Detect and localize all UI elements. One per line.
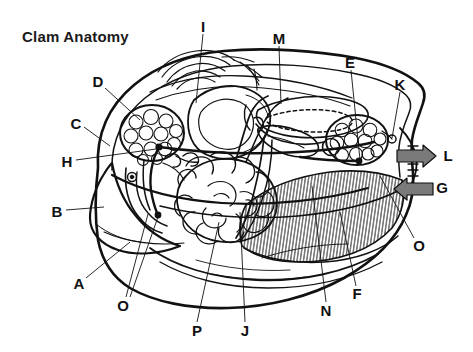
page-title: Clam Anatomy: [22, 28, 129, 45]
cerebral-ganglion-dot: [155, 143, 162, 150]
leader-line-I: [196, 34, 203, 103]
leader-line-B: [66, 207, 104, 210]
leader-line-A: [86, 242, 130, 278]
callout-label-G: G: [436, 180, 448, 195]
callout-label-C: C: [71, 116, 82, 131]
callout-label-H: H: [62, 154, 73, 169]
callout-label-N: N: [321, 303, 332, 318]
callout-label-D: D: [93, 74, 104, 89]
callout-label-F: F: [352, 286, 361, 301]
clam-anatomy-illustration: [0, 0, 473, 352]
gill-ctenidium: [236, 168, 411, 268]
callout-label-I: I: [201, 19, 205, 34]
callout-label-K: K: [395, 77, 406, 92]
clam-anatomy-figure: Clam Anatomy A B C D E F G H I J K L M N…: [0, 0, 473, 352]
umbo-radial-striae: [222, 57, 262, 90]
foot-retractor: [143, 160, 150, 210]
palp-small-loop-b: [183, 153, 199, 166]
foot-tip-crease: [96, 224, 140, 242]
callout-label-O-left: O: [117, 298, 129, 313]
heart-dashed-outline: [266, 110, 353, 132]
anterior-adductor-cells: [124, 110, 183, 166]
leader-line-K: [392, 92, 400, 138]
leader-line-C: [84, 127, 110, 146]
callout-label-L: L: [443, 148, 452, 163]
callout-label-O-right: O: [413, 238, 425, 253]
gill-filament-hatching: [236, 168, 411, 268]
callout-label-J: J: [241, 323, 249, 338]
callout-label-E: E: [345, 55, 355, 70]
leader-line-M: [279, 46, 281, 104]
ventral-crease-b: [212, 274, 306, 279]
callout-label-A: A: [74, 276, 85, 291]
callout-label-M: M: [273, 31, 286, 46]
callout-label-B: B: [52, 204, 63, 219]
anterior-pedal-ganglion-dot: [130, 175, 134, 179]
callout-label-P: P: [192, 323, 202, 338]
